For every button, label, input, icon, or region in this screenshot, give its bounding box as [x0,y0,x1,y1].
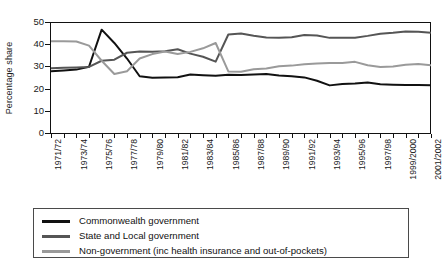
x-tick-mark [241,134,242,138]
x-tick-mark [76,134,77,138]
x-tick-mark [165,134,166,138]
x-tick-label: 1997/98 [384,139,393,170]
x-tick-mark [279,134,280,138]
series-lines [51,23,431,134]
x-tick-label: 1991/92 [308,139,317,170]
x-tick-mark [89,134,90,138]
x-tick-mark [266,134,267,138]
x-tick-mark [127,134,128,138]
y-tick-mark [45,111,50,112]
y-axis-title: Percentage share [2,22,16,134]
x-tick-mark [114,134,115,138]
x-tick-mark [102,134,103,138]
y-tick-label: 0 [39,128,44,138]
x-tick-label: 1971/72 [54,139,63,170]
y-tick-label: 10 [33,106,44,116]
series-line [51,30,431,86]
legend-swatch-icon [42,220,70,223]
x-axis-ticks [51,134,431,138]
x-tick-mark [203,134,204,138]
x-tick-mark [64,134,65,138]
y-tick-mark [45,133,50,134]
x-tick-mark [152,134,153,138]
y-tick-label: 30 [33,62,44,72]
x-tick-mark [304,134,305,138]
y-tick-mark [45,66,50,67]
y-tick-label: 50 [33,17,44,27]
legend-item-label: State and Local government [79,231,199,241]
x-tick-mark [342,134,343,138]
x-tick-mark [330,134,331,138]
plot-area [51,22,431,133]
legend-item: Non-government (inc health insurance and… [42,244,327,258]
x-tick-mark [418,134,419,138]
x-tick-mark [292,134,293,138]
y-tick-mark [45,22,50,23]
x-tick-mark [254,134,255,138]
line-chart: Percentage share 01020304050 1971/721973… [0,0,439,205]
x-tick-mark [140,134,141,138]
x-tick-mark [216,134,217,138]
x-axis-tick-labels: 1971/721973/741975/761977/781979/801981/… [51,139,431,197]
x-tick-mark [431,134,432,138]
chart-legend: Commonwealth governmentState and Local g… [33,208,409,258]
x-tick-label: 1983/84 [206,139,215,170]
x-tick-label: 1995/96 [358,139,367,170]
y-tick-label: 20 [33,84,44,94]
x-tick-mark [190,134,191,138]
y-tick-label: 40 [33,39,44,49]
series-line [51,41,431,74]
y-axis-title-text: Percentage share [4,42,14,115]
x-tick-label: 1981/82 [181,139,190,170]
x-tick-mark [368,134,369,138]
x-tick-label: 1973/74 [80,139,89,170]
x-tick-label: 1975/76 [105,139,114,170]
x-tick-label: 1979/80 [156,139,165,170]
x-tick-mark [406,134,407,138]
x-tick-label: 1987/88 [257,139,266,170]
y-tick-mark [45,89,50,90]
x-tick-label: 1993/94 [333,139,342,170]
x-tick-mark [380,134,381,138]
legend-item-label: Non-government (inc health insurance and… [79,246,327,256]
legend-swatch-icon [42,235,70,238]
x-tick-label: 2001/2002 [434,139,443,180]
legend-item: State and Local government [42,229,199,243]
x-tick-mark [178,134,179,138]
x-tick-label: 1999/2000 [409,139,418,180]
legend-swatch-icon [42,250,70,253]
x-tick-label: 1985/86 [232,139,241,170]
x-tick-mark [317,134,318,138]
legend-item-label: Commonwealth government [79,216,199,226]
x-tick-mark [355,134,356,138]
x-tick-mark [228,134,229,138]
y-tick-mark [45,44,50,45]
x-tick-label: 1977/78 [130,139,139,170]
x-tick-mark [51,134,52,138]
x-tick-mark [393,134,394,138]
x-tick-label: 1989/90 [282,139,291,170]
y-axis-tick-labels: 01020304050 [18,22,44,134]
legend-item: Commonwealth government [42,214,199,228]
